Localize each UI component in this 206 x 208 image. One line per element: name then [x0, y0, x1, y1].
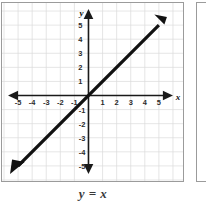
function-arrow-lower-left [10, 159, 25, 174]
x-tick-label: -2 [57, 98, 64, 107]
y-tick-label: 1 [78, 77, 82, 86]
y-axis-label: y [78, 8, 84, 18]
adjacent-graph-panel [196, 2, 206, 182]
y-tick-label: -2 [79, 120, 86, 129]
x-axis-arrow-right [163, 91, 173, 101]
x-tick-label: -5 [15, 98, 22, 107]
y-tick-label: -3 [79, 134, 86, 143]
coordinate-plane: -5 -4 -3 -2 -1 1 2 3 4 5 5 4 3 2 [2, 3, 183, 181]
x-tick-label: -4 [29, 98, 36, 107]
y-tick-label: 3 [78, 49, 82, 58]
x-tick-label: -1 [71, 98, 78, 107]
y-tick-label: 4 [78, 35, 83, 44]
y-tick-label: -4 [79, 148, 86, 157]
figure-root: -5 -4 -3 -2 -1 1 2 3 4 5 5 4 3 2 [0, 0, 206, 208]
y-tick-label: -1 [79, 106, 86, 115]
figure-caption: y = x [0, 186, 186, 202]
y-tick-label: -5 [79, 162, 86, 171]
x-tick-label: -3 [43, 98, 50, 107]
x-tick-label: 2 [115, 98, 119, 107]
coordinate-plane-svg: -5 -4 -3 -2 -1 1 2 3 4 5 5 4 3 2 [2, 3, 183, 181]
x-tick-label: 3 [129, 98, 133, 107]
x-tick-label: 5 [157, 98, 161, 107]
function-arrow-upper-right [154, 15, 167, 25]
y-axis-arrow-up [84, 9, 94, 19]
graph-panel: -5 -4 -3 -2 -1 1 2 3 4 5 5 4 3 2 [1, 2, 184, 182]
x-axis-label: x [175, 92, 181, 102]
y-tick-label: 2 [78, 63, 82, 72]
x-tick-label: 1 [100, 98, 104, 107]
y-tick-label: 5 [78, 21, 82, 30]
x-tick-label: 4 [143, 98, 148, 107]
